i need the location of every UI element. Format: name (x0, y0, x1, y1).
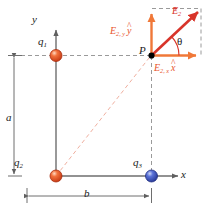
charge-q1-marker (50, 50, 62, 62)
charge-label-q2-subscript: 2 (20, 162, 23, 169)
vector-label-y-unit-group: ^y (127, 26, 131, 36)
charge-q3-marker (146, 170, 158, 182)
angle-theta-label: θ (177, 36, 182, 47)
vector-label-y-component-subscript: 2, y (116, 30, 125, 37)
dimension-label-b: b (84, 188, 90, 199)
diagram-svg (0, 0, 209, 210)
vector-label-y-component: E2, y^y (110, 26, 132, 36)
hat-accent-icon-x: ^ (171, 59, 175, 69)
charge-label-q3-subscript: 3 (139, 162, 142, 169)
vector-label-x-unit-group: ^x (171, 63, 175, 73)
figure-canvas: y x q1 q2 q3 P θ a b E2 E2, y^y E2, x^x (0, 0, 209, 210)
point-p-label: P (139, 45, 146, 56)
x-axis-label: x (181, 169, 186, 180)
charge-q2-marker (50, 170, 62, 182)
charge-label-q1-symbol: q (38, 35, 44, 47)
charge-label-q3-symbol: q (133, 156, 139, 168)
vector-label-x-component-subscript: 2, x (160, 67, 169, 74)
charge-label-q2: q2 (14, 157, 23, 168)
vector-label-x-component: E2, x^x (154, 63, 176, 73)
vector-label-resultant-e2: E2 (172, 6, 181, 16)
charge-label-q3: q3 (133, 157, 142, 168)
hat-accent-icon-y: ^ (127, 22, 131, 32)
point-p-marker (148, 52, 154, 58)
y-axis-label: y (32, 14, 37, 25)
vector-resultant-e2 (152, 12, 199, 56)
charge-label-q1-subscript: 1 (44, 41, 47, 48)
vector-label-resultant-subscript: 2 (178, 10, 181, 17)
charge-label-q2-symbol: q (14, 156, 20, 168)
charge-label-q1: q1 (38, 36, 47, 47)
dimension-label-a: a (6, 112, 12, 123)
